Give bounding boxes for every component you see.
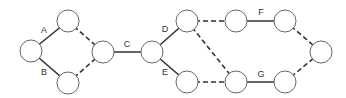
- label-f: F: [258, 7, 264, 17]
- node-10: [225, 71, 247, 93]
- node-12: [310, 41, 332, 63]
- label-d: D: [162, 24, 169, 34]
- label-g: G: [257, 69, 264, 79]
- node-8: [225, 10, 247, 32]
- node-5: [141, 41, 163, 63]
- label-c: C: [124, 39, 131, 49]
- node-7: [176, 71, 198, 93]
- diagram-svg: A B C D E F G: [0, 0, 346, 98]
- node-1: [20, 40, 42, 62]
- node-3: [57, 72, 79, 94]
- label-e: E: [162, 67, 168, 77]
- network-diagram: A B C D E F G: [0, 0, 346, 98]
- node-11: [274, 71, 296, 93]
- node-4: [92, 41, 114, 63]
- label-b: B: [41, 67, 47, 77]
- node-9: [274, 10, 296, 32]
- dummy-edge-diagonal: [187, 21, 236, 82]
- label-a: A: [41, 25, 47, 35]
- node-6: [176, 10, 198, 32]
- node-2: [57, 10, 79, 32]
